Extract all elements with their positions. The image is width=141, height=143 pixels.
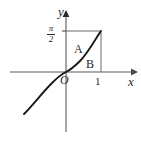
- math-figure: y x O 1 π 2 A B: [0, 0, 141, 143]
- fraction-numerator: π: [44, 24, 58, 33]
- fraction-denominator: 2: [44, 35, 58, 44]
- figure-canvas: [0, 0, 141, 143]
- region-label-a: A: [74, 43, 83, 55]
- x-tick-label-1: 1: [95, 76, 101, 87]
- region-label-b: B: [86, 58, 94, 70]
- x-axis: [10, 69, 138, 76]
- origin-label: O: [60, 74, 69, 86]
- bounding-rectangle: [66, 31, 101, 72]
- x-axis-label: x: [128, 75, 134, 88]
- y-axis-label: y: [58, 5, 64, 18]
- y-tick-label-pi-over-two: π 2: [44, 24, 58, 45]
